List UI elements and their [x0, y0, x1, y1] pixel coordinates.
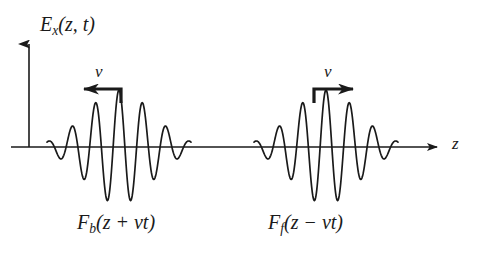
forward-wave-packet — [254, 90, 398, 201]
forward-velocity-arrow — [314, 89, 353, 103]
backward-velocity-arrow — [84, 89, 121, 103]
velocity-arrows-group — [84, 89, 353, 103]
forward-packet-label-symbol: F — [268, 211, 280, 233]
backward-packet-label-symbol: F — [77, 211, 89, 233]
vertical-axis-label-arguments: (z, t) — [58, 13, 95, 35]
vertical-axis-label: Ex(z, t) — [40, 14, 95, 38]
figure-canvas — [0, 0, 479, 270]
backward-velocity-label: v — [95, 63, 103, 80]
vertical-axis-label-symbol: E — [40, 13, 52, 35]
forward-packet-label-arguments: (z − vt) — [284, 211, 343, 233]
backward-packet-label-subscript: b — [89, 221, 96, 236]
wave-packets-group — [47, 90, 398, 201]
forward-velocity-label: v — [324, 63, 332, 80]
forward-packet-label: Ff(z − vt) — [268, 212, 343, 236]
wave-packet-figure: Ex(z, t) z v v Fb(z + vt) Ff(z − vt) — [0, 0, 479, 270]
backward-packet-label: Fb(z + vt) — [77, 212, 155, 236]
horizontal-axis-label: z — [452, 135, 459, 152]
backward-packet-label-arguments: (z + vt) — [96, 211, 155, 233]
backward-wave-packet — [47, 90, 191, 201]
